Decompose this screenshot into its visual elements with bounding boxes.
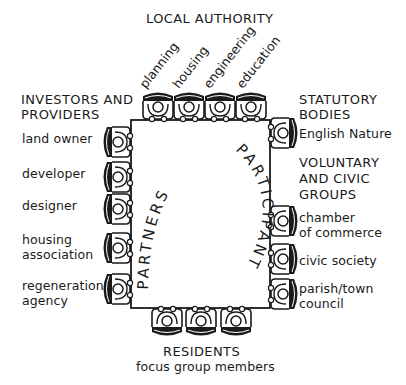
seat-label-designer: designer [22,198,77,213]
top-chairs [143,93,266,122]
statutory-heading-line1: STATUTORY [299,92,377,107]
seat-label-regeneration-agency-1: regeneration [22,278,104,293]
voluntary-heading-line2: AND CIVIC [299,171,370,186]
statutory-heading-line2: BODIES [299,107,351,122]
bottom-chairs [152,306,251,335]
seat-label-land-owner: land owner [22,131,93,146]
seat-label-chamber-1: chamber [299,210,355,225]
investors-heading-line1: INVESTORS AND [21,92,133,107]
seat-label-english-nature: English Nature [299,126,392,141]
seat-label-civic-society: civic society [299,253,377,268]
seat-label-parish-council-1: parish/town [299,281,374,296]
meeting-table-diagram: PARTNERS PARTICIPANT LOCAL AUTHORITY pla… [0,0,406,385]
seat-label-housing-association-1: housing [22,232,72,247]
local-authority-heading: LOCAL AUTHORITY [146,11,273,26]
investors-heading-line2: PROVIDERS [21,107,100,122]
voluntary-heading-line3: GROUPS [299,187,356,202]
left-chairs [104,127,133,304]
residents-heading: RESIDENTS [163,344,240,359]
residents-subheading: focus group members [136,359,275,374]
voluntary-heading-line1: VOLUNTARY [299,155,379,170]
seat-label-housing-association-2: association [22,247,93,262]
seat-label-regeneration-agency-2: agency [22,293,68,308]
seat-label-parish-council-2: council [299,296,344,311]
seat-label-developer: developer [22,166,86,181]
seat-label-chamber-2: of commerce [299,225,382,240]
